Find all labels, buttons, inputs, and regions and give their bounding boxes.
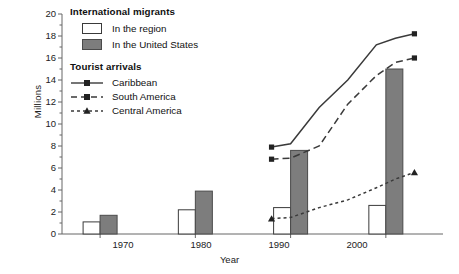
legend-group-title-tourist-arrivals: Tourist arrivals <box>70 61 198 72</box>
chart-container: Millions 20 18 16 14 12 10 8 6 4 2 0 197… <box>0 0 459 274</box>
legend-item-in-the-united-states[interactable]: In the United States <box>70 37 198 51</box>
legend-label-central-america: Central America <box>112 105 182 116</box>
legend-label-in-the-region: In the region <box>112 23 166 34</box>
square-marker <box>269 157 274 162</box>
plot-area <box>0 0 459 274</box>
legend-item-caribbean[interactable]: Caribbean <box>70 76 198 89</box>
solid-line-square-marker-icon <box>70 77 104 89</box>
legend-group-title-migrants: International migrants <box>70 6 198 17</box>
bar <box>386 69 403 234</box>
legend-label-caribbean: Caribbean <box>112 77 157 88</box>
legend-label-south-america: South America <box>112 91 176 102</box>
bar <box>100 215 117 234</box>
legend-item-south-america[interactable]: South America <box>70 90 198 103</box>
chart-legend: International migrants In the region In … <box>70 6 198 118</box>
square-marker <box>412 31 417 36</box>
triangle-marker <box>411 169 418 175</box>
legend-item-in-the-region[interactable]: In the region <box>70 21 198 35</box>
legend-label-in-the-united-states: In the United States <box>112 39 198 50</box>
bar <box>178 210 195 234</box>
bar <box>369 205 386 234</box>
filled-square-swatch-icon <box>82 39 102 50</box>
dashed-line-square-marker-icon <box>70 91 104 103</box>
dotted-line-triangle-marker-icon <box>70 105 104 117</box>
bar <box>83 222 100 234</box>
legend-item-central-america[interactable]: Central America <box>70 104 198 117</box>
square-marker <box>412 55 417 60</box>
bar <box>274 208 291 234</box>
bar <box>195 191 212 234</box>
open-square-swatch-icon <box>82 23 102 34</box>
bar <box>291 150 308 234</box>
square-marker <box>269 145 274 150</box>
